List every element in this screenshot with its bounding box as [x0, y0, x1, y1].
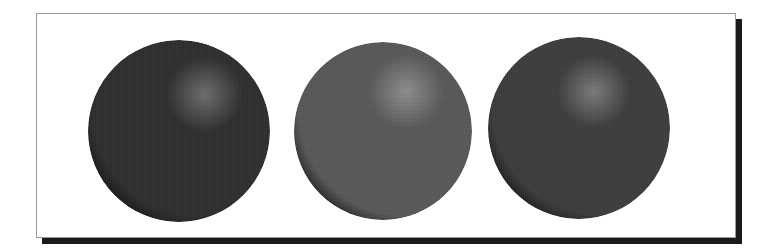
- sphere-texture: [88, 40, 270, 222]
- sphere-dark: [88, 40, 270, 222]
- sphere-light: [294, 42, 472, 220]
- sphere-texture: [294, 42, 472, 220]
- sphere-medium: [488, 37, 670, 219]
- sphere-texture: [488, 37, 670, 219]
